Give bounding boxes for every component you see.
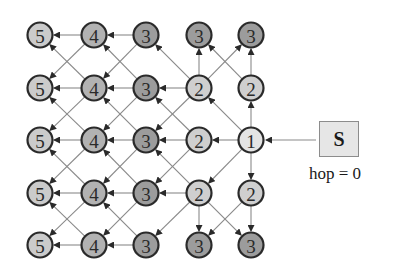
node-hop-label: 3: [141, 236, 151, 257]
edge-arrow: [50, 149, 85, 183]
node-hop-label: 3: [194, 26, 204, 47]
edge-arrow: [104, 150, 137, 184]
edge-arrow: [104, 45, 137, 79]
grid-node: 5: [28, 23, 53, 48]
grid-node: 3: [134, 128, 159, 153]
edge-arrow: [209, 98, 242, 131]
grid-node: 4: [82, 181, 107, 206]
node-hop-label: 2: [246, 184, 256, 205]
edge-arrow: [156, 150, 190, 184]
node-hop-label: 3: [141, 26, 151, 47]
edge-arrow: [156, 97, 190, 130]
grid-node: 3: [134, 181, 159, 206]
edge-arrow: [208, 202, 241, 235]
edge-arrow: [156, 45, 190, 79]
grid-node: 2: [239, 181, 264, 206]
edge-arrow: [50, 97, 85, 131]
edge-arrow: [208, 45, 241, 79]
edge-arrow: [104, 149, 137, 183]
grid-node: 3: [239, 23, 264, 48]
node-hop-label: 3: [246, 26, 256, 47]
node-hop-label: 5: [35, 26, 45, 47]
grid-node: 3: [187, 23, 212, 48]
grid-node: 2: [187, 181, 212, 206]
edge-arrow: [209, 202, 242, 235]
grid-node: 3: [134, 233, 159, 258]
grid-node: 3: [187, 233, 212, 258]
node-hop-label: 3: [194, 236, 204, 257]
edge-arrow: [50, 150, 85, 184]
node-hop-label: 1: [246, 131, 256, 152]
edge-arrow: [156, 149, 190, 183]
edge-arrow: [209, 45, 242, 79]
edge-arrow: [104, 203, 137, 236]
edge-arrow: [104, 98, 137, 131]
edge-arrow: [156, 202, 190, 235]
node-hop-label: 3: [141, 131, 151, 152]
grid-node: 5: [28, 128, 53, 153]
grid-node: 2: [187, 128, 212, 153]
edge-arrow: [50, 203, 85, 237]
node-hop-label: 4: [89, 26, 99, 47]
grid-node: 4: [82, 23, 107, 48]
grid-node: 5: [28, 181, 53, 206]
node-hop-label: 2: [194, 131, 204, 152]
node-hop-label: 3: [141, 184, 151, 205]
node-hop-label: 2: [246, 79, 256, 100]
grid-node: 3: [134, 76, 159, 101]
node-hop-label: 3: [246, 236, 256, 257]
node-hop-label: 4: [89, 184, 99, 205]
grid-node: 2: [239, 76, 264, 101]
edge-arrow: [104, 97, 137, 130]
node-hop-label: 2: [194, 184, 204, 205]
edge-arrow: [50, 98, 85, 132]
grid-node: 5: [28, 76, 53, 101]
node-hop-label: 3: [141, 79, 151, 100]
edge-arrow: [104, 44, 137, 78]
edge-arrow: [50, 45, 85, 79]
source-label: S: [333, 128, 344, 151]
grid-node: 4: [82, 128, 107, 153]
edge-arrow: [50, 44, 85, 78]
node-hop-label: 5: [35, 131, 45, 152]
edge-arrow: [156, 98, 190, 131]
grid-node: 4: [82, 76, 107, 101]
edge-arrow: [104, 202, 137, 235]
grid-node: 4: [82, 233, 107, 258]
source-hop-label: hop = 0: [309, 164, 361, 184]
node-hop-label: 5: [35, 236, 45, 257]
node-hop-label: 4: [89, 79, 99, 100]
edge-arrow: [209, 149, 242, 183]
node-hop-label: 5: [35, 184, 45, 205]
edge-arrow: [50, 202, 85, 236]
grid-node: 3: [134, 23, 159, 48]
node-hop-label: 4: [89, 236, 99, 257]
grid-node: 2: [187, 76, 212, 101]
node-hop-label: 2: [194, 79, 204, 100]
grid-node: 5: [28, 233, 53, 258]
grid-node: 1: [239, 128, 264, 153]
grid-node: 3: [239, 233, 264, 258]
node-hop-label: 4: [89, 131, 99, 152]
source-node-box: S: [319, 121, 359, 157]
node-hop-label: 5: [35, 79, 45, 100]
